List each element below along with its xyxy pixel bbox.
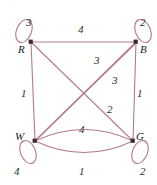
vertex-label-R: R	[18, 44, 25, 55]
edge-weight-R-W: 1	[21, 88, 27, 99]
vertex-dot-G	[131, 139, 135, 143]
loop-weight-G: 2	[140, 166, 146, 177]
vertex-label-G: G	[136, 131, 144, 142]
edge-weight-B-W-a: 3	[112, 75, 118, 86]
edge-weight-R-G: 3	[94, 55, 100, 66]
weighted-graph-figure: . R B W G 3 2 4 2 4 1 1 3 3 2 4 1	[0, 0, 157, 185]
edge-weight-W-G-upper: 4	[79, 124, 85, 135]
edge-group	[13, 17, 155, 166]
edge-B-W-b	[35, 43, 136, 141]
edge-B-G	[133, 42, 136, 141]
edge-weight-B-W-b: 2	[107, 104, 113, 115]
edge-weight-W-G-lower: 1	[79, 166, 85, 177]
loop-weight-B: 2	[140, 17, 146, 28]
loop-weight-W: 4	[14, 166, 20, 177]
vertex-label-B: B	[140, 44, 147, 55]
edge-W-G-lower	[35, 141, 133, 153]
vertex-label-W: W	[15, 131, 24, 142]
loop-weight-R: 3	[26, 17, 32, 28]
crop-artifact: .	[9, 1, 11, 8]
edge-weight-B-G: 1	[137, 88, 143, 99]
edge-R-W	[31, 42, 35, 141]
vertex-dot-R	[29, 40, 33, 44]
vertex-dot-B	[134, 40, 138, 44]
vertex-dot-W	[33, 139, 37, 143]
edge-weight-R-B: 4	[78, 24, 84, 35]
